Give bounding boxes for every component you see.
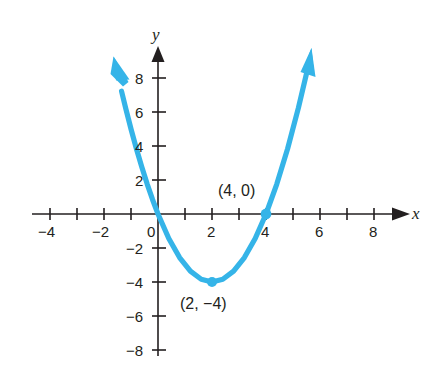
x-tick-label--4: −4 — [38, 224, 55, 239]
x-tick-label-0: 0 — [147, 224, 155, 239]
y-tick-label-2: 2 — [135, 173, 143, 188]
annotation-point-vertex: (2, −4) — [180, 296, 227, 312]
point-marker-vertex — [207, 277, 217, 287]
y-tick-label-8: 8 — [135, 71, 143, 86]
x-axis-label: x — [412, 205, 420, 222]
annotation-point-4-0: (4, 0) — [218, 183, 255, 199]
x-tick-label-4: 4 — [261, 224, 269, 239]
y-tick-label--4: −4 — [126, 275, 143, 290]
y-tick-label-6: 6 — [135, 105, 143, 120]
y-tick-label--8: −8 — [126, 343, 143, 358]
y-tick-label-4: 4 — [135, 139, 143, 154]
y-tick-label--6: −6 — [126, 309, 143, 324]
y-axis-arrowhead — [152, 46, 165, 62]
x-tick-label-2: 2 — [207, 224, 215, 239]
x-tick-label-6: 6 — [315, 224, 323, 239]
x-tick-label-8: 8 — [369, 224, 377, 239]
x-axis-arrowhead — [392, 208, 410, 221]
y-tick-label--2: −2 — [126, 241, 143, 256]
graph-figure: −4 −2 0 2 4 6 8 8 6 4 2 −2 −4 −6 −8 x y … — [0, 0, 439, 388]
x-tick-label--2: −2 — [92, 224, 109, 239]
right-branch-arrow-fill — [303, 48, 314, 74]
left-branch-arrow-fill — [114, 57, 130, 81]
parabola-path — [122, 68, 308, 282]
point-marker-4-0 — [261, 209, 272, 220]
y-axis-label: y — [152, 26, 160, 43]
